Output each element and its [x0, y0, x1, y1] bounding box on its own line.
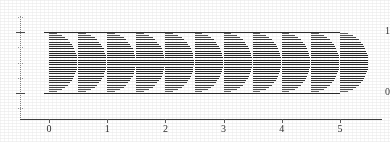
hatch-line	[340, 82, 361, 83]
hatch-line	[78, 71, 105, 72]
hatch-line	[340, 51, 366, 52]
hatch-line	[49, 89, 62, 90]
hatch-line	[49, 33, 57, 34]
hatch-line	[195, 80, 218, 81]
hatch-line	[136, 44, 159, 45]
hatch-line	[340, 69, 368, 70]
hatch-line	[224, 51, 250, 52]
hatch-line	[340, 33, 348, 34]
hatch-line	[107, 76, 132, 77]
hatch-line	[49, 55, 77, 56]
hatch-line	[78, 46, 102, 47]
hatch-line	[195, 73, 221, 74]
hatch-line	[340, 44, 363, 45]
hatch-line	[195, 82, 216, 83]
hatch-line	[49, 64, 77, 65]
x-axis-tick-label: 4	[272, 123, 292, 134]
hatch-line	[224, 71, 251, 72]
hatch-line	[311, 46, 335, 47]
hatch-line	[49, 48, 74, 49]
hatch-line	[224, 76, 249, 77]
hatch-line	[195, 67, 223, 68]
hatch-line	[195, 46, 219, 47]
hatch-line	[253, 46, 277, 47]
hatch-line	[136, 67, 164, 68]
hatch-line	[340, 87, 356, 88]
hatch-line	[78, 44, 101, 45]
density-shape	[340, 32, 368, 93]
hatch-line	[311, 48, 336, 49]
hatch-line	[136, 69, 164, 70]
hatch-line	[107, 67, 135, 68]
hatch-line	[107, 64, 135, 65]
hatch-line	[224, 60, 252, 61]
hatch-line	[311, 78, 335, 79]
hatch-line	[49, 53, 76, 54]
hatch-line	[107, 80, 130, 81]
hatch-line	[136, 57, 164, 58]
hatch-line	[253, 51, 279, 52]
x-axis-tick-label: 2	[155, 123, 175, 134]
hatch-line	[253, 48, 278, 49]
hatch-line	[282, 87, 298, 88]
hatch-line	[107, 69, 135, 70]
hatch-line	[340, 80, 363, 81]
hatch-line	[224, 67, 252, 68]
hatch-line	[282, 82, 303, 83]
hatch-line	[195, 48, 220, 49]
hatch-line	[282, 69, 310, 70]
hatch-line	[107, 62, 135, 63]
hatch-line	[253, 78, 277, 79]
hatch-line	[165, 80, 188, 81]
figure-canvas: 01 012345	[0, 0, 390, 142]
hatch-line	[253, 89, 266, 90]
hatch-line	[107, 37, 123, 38]
hatch-line	[282, 89, 295, 90]
hatch-line	[224, 82, 245, 83]
hatch-line	[224, 89, 237, 90]
hatch-line	[107, 42, 128, 43]
hatch-line	[78, 85, 97, 86]
hatch-line	[78, 51, 104, 52]
hatch-line	[340, 42, 361, 43]
hatch-line	[311, 42, 332, 43]
hatch-line	[311, 80, 334, 81]
density-shape	[253, 32, 281, 93]
hatch-line	[165, 57, 193, 58]
hatch-line	[224, 44, 247, 45]
hatch-line	[224, 33, 232, 34]
hatch-line	[165, 48, 190, 49]
hatch-line	[195, 39, 214, 40]
hatch-line	[253, 80, 276, 81]
hatch-line	[340, 46, 364, 47]
hatch-line	[282, 71, 309, 72]
hatch-line	[311, 64, 339, 65]
hatch-line	[107, 46, 131, 47]
y-axis-tick-label: 0	[376, 87, 390, 97]
hatch-line	[165, 55, 193, 56]
hatch-line	[340, 64, 368, 65]
y-axis-minor-tick	[18, 17, 23, 18]
hatch-line	[78, 55, 106, 56]
hatch-line	[224, 78, 248, 79]
hatch-line	[136, 48, 161, 49]
hatch-line	[340, 85, 359, 86]
hatch-line	[165, 46, 189, 47]
hatch-line	[49, 42, 70, 43]
hatch-line	[224, 62, 252, 63]
hatch-line	[253, 91, 261, 92]
hatch-line	[282, 53, 309, 54]
hatch-line	[78, 80, 101, 81]
hatch-line	[49, 69, 77, 70]
y-axis-tick-label: 1	[376, 26, 390, 36]
hatch-line	[107, 85, 126, 86]
hatch-line	[49, 85, 68, 86]
hatch-line	[78, 82, 99, 83]
hatch-line	[78, 67, 106, 68]
hatch-line	[195, 42, 216, 43]
density-shape	[282, 32, 310, 93]
hatch-line	[195, 87, 211, 88]
y-axis-minor-tick	[18, 63, 23, 64]
hatch-line	[195, 69, 223, 70]
hatch-line	[136, 42, 157, 43]
